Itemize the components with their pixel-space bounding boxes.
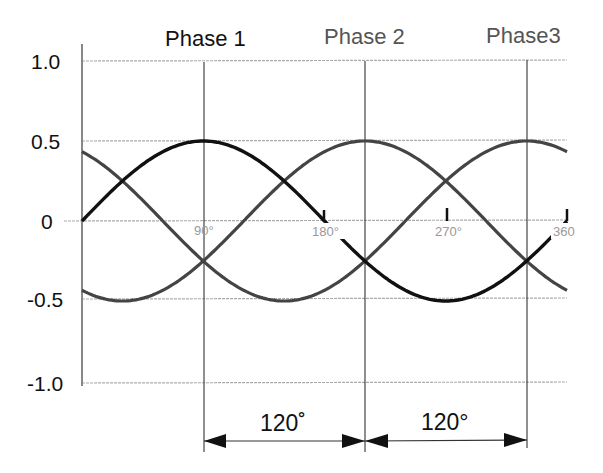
three-phase-chart: 1.0 0.5 0 -0.5 -1.0 90° 180° 270° 360 Ph… <box>0 0 603 473</box>
x-label-90: 90° <box>194 223 214 238</box>
arrowhead-left-1 <box>204 434 226 448</box>
x-label-270: 270° <box>435 224 462 239</box>
dimension-label-1: 120˚ <box>260 410 306 436</box>
gridline-0.5 <box>82 140 567 141</box>
phase1-label: Phase 1 <box>165 26 246 51</box>
dimension-line-2 <box>365 440 527 441</box>
y-label-minus-0.5: -0.5 <box>27 288 63 311</box>
y-label-minus-1.0: -1.0 <box>27 372 63 395</box>
arrowhead-left-2 <box>365 434 388 448</box>
phase2-label: Phase 2 <box>324 24 405 49</box>
y-label-0: 0 <box>41 210 53 233</box>
y-label-1.0: 1.0 <box>31 50 60 73</box>
x-label-180: 180° <box>312 224 339 239</box>
gridline-minus-1.0 <box>82 382 567 383</box>
phase3-label: Phase3 <box>486 23 561 48</box>
x-label-360: 360 <box>553 224 575 239</box>
arrowhead-right-2 <box>504 433 527 447</box>
horizontal-gridlines <box>64 60 567 383</box>
y-label-0.5: 0.5 <box>31 130 60 153</box>
gridline-minus-0.5 <box>82 298 567 299</box>
gridline-1.0 <box>82 60 567 61</box>
gridline-0 <box>64 220 567 221</box>
arrowhead-right-1 <box>342 434 365 448</box>
dimension-label-2: 120° <box>421 409 469 435</box>
peak-reference-lines <box>204 60 527 452</box>
